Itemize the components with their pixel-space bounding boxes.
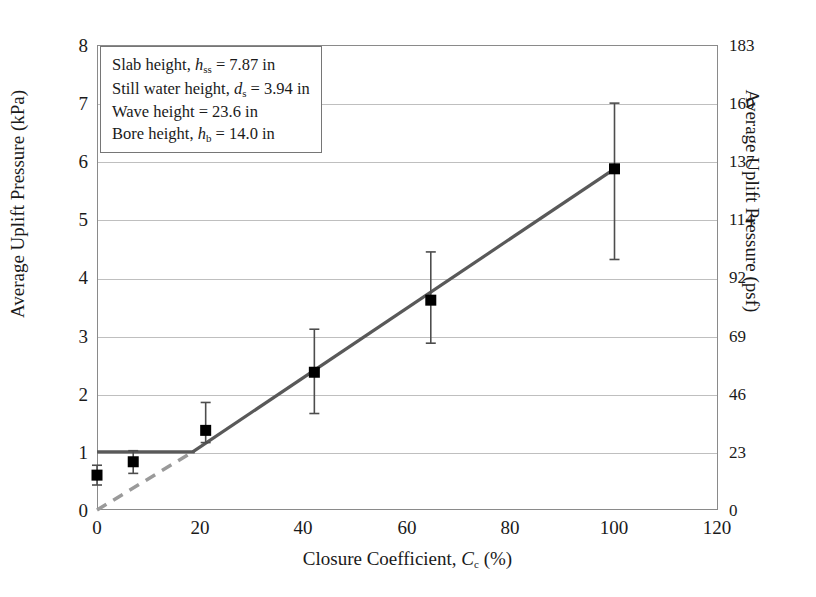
gridline-3 — [98, 337, 717, 338]
legend-line-wave-height: Wave height = 23.6 in — [112, 101, 311, 123]
x-tick-0: 0 — [67, 518, 127, 537]
still-water-value: = 3.94 in — [246, 79, 309, 98]
x-tick-100: 100 — [584, 518, 644, 537]
y2-tick-46: 46 — [729, 386, 775, 403]
x-axis-title-sub: c — [474, 558, 479, 570]
y-axis-title-right: Average Uplift Pressure (psf) — [741, 21, 763, 381]
x-tick-80: 80 — [480, 518, 540, 537]
y-tick-8: 8 — [46, 36, 88, 55]
x-tick-20: 20 — [170, 518, 230, 537]
gridline-2 — [98, 395, 717, 396]
slab-height-label: Slab height, — [112, 55, 195, 74]
still-water-label: Still water height, — [112, 79, 234, 98]
gridline-1 — [98, 453, 717, 454]
y-tick-7: 7 — [46, 94, 88, 113]
gridline-6 — [98, 162, 717, 163]
bore-height-subscript: b — [206, 132, 212, 144]
y-tick-2: 2 — [46, 385, 88, 404]
still-water-symbol: d — [234, 79, 242, 98]
parameter-legend-box: Slab height, hss = 7.87 in Still water h… — [100, 46, 322, 153]
y2-tick-0: 0 — [729, 502, 775, 519]
bore-height-value: = 14.0 in — [211, 124, 274, 143]
legend-line-bore-height: Bore height, hb = 14.0 in — [112, 123, 311, 147]
x-axis-title: Closure Coefficient, Cc (%) — [97, 548, 718, 570]
x-tick-120: 120 — [687, 518, 747, 537]
legend-line-still-water-height: Still water height, ds = 3.94 in — [112, 78, 311, 102]
gridline-4 — [98, 279, 717, 280]
slab-height-value: = 7.87 in — [212, 55, 275, 74]
x-tick-40: 40 — [273, 518, 333, 537]
y-tick-5: 5 — [46, 210, 88, 229]
x-tick-60: 60 — [377, 518, 437, 537]
y-tick-1: 1 — [46, 443, 88, 462]
y-axis-title-left: Average Uplift Pressure (kPa) — [7, 24, 29, 384]
bore-height-symbol: h — [198, 124, 206, 143]
bore-height-label: Bore height, — [112, 124, 198, 143]
y-tick-6: 6 — [46, 152, 88, 171]
y2-tick-23: 23 — [729, 444, 775, 461]
uplift-pressure-chart: 8 7 6 5 4 3 2 1 0 183 160 137 114 92 69 … — [0, 0, 816, 597]
x-axis-title-pre: Closure Coefficient, — [303, 548, 461, 569]
x-axis-title-var: C — [461, 548, 474, 569]
slab-height-symbol: h — [195, 55, 203, 74]
slab-height-subscript: ss — [203, 63, 212, 75]
x-axis-title-post: (%) — [479, 548, 512, 569]
gridline-5 — [98, 220, 717, 221]
legend-line-slab-height: Slab height, hss = 7.87 in — [112, 54, 311, 78]
y-tick-4: 4 — [46, 268, 88, 287]
y-tick-3: 3 — [46, 327, 88, 346]
still-water-subscript: s — [242, 87, 246, 99]
